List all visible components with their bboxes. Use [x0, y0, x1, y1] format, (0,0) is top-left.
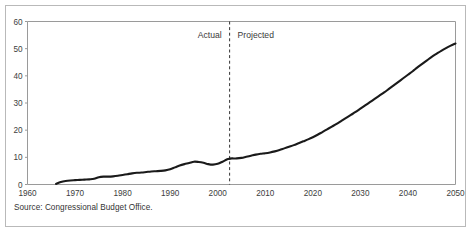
- y-tick-label: 20: [13, 126, 23, 135]
- y-tick-label: 60: [13, 18, 23, 27]
- line-chart: 0102030405060 19601970198019902000201020…: [0, 0, 473, 233]
- x-tick-label: 1970: [66, 189, 85, 198]
- data-line-projected: [230, 44, 456, 159]
- x-tick-label: 1990: [161, 189, 180, 198]
- x-tick-label: 1960: [18, 189, 37, 198]
- x-tick-label: 2030: [351, 189, 370, 198]
- y-axis-tick-labels: 0102030405060: [13, 18, 27, 190]
- source-note: Source: Congressional Budget Office.: [14, 203, 153, 212]
- x-tick-label: 2000: [209, 189, 228, 198]
- axis-spines: [28, 22, 456, 185]
- x-tick-label: 2010: [256, 189, 275, 198]
- projected-annotation-label: Projected: [238, 30, 275, 40]
- y-tick-label: 50: [13, 45, 23, 54]
- x-tick-label: 1980: [114, 189, 133, 198]
- y-tick-label: 30: [13, 99, 23, 108]
- x-tick-label: 2040: [399, 189, 418, 198]
- plot-wrapper: 0102030405060 19601970198019902000201020…: [0, 0, 473, 233]
- x-axis-tick-labels: 1960197019801990200020102020203020402050: [18, 189, 465, 198]
- actual-annotation-label: Actual: [198, 30, 222, 40]
- x-tick-label: 2050: [446, 189, 465, 198]
- chart-figure: 0102030405060 19601970198019902000201020…: [0, 0, 473, 233]
- data-line-actual: [56, 159, 230, 184]
- y-tick-label: 40: [13, 72, 23, 81]
- plot-frame: [28, 22, 456, 185]
- x-tick-label: 2020: [304, 189, 323, 198]
- y-tick-label: 10: [13, 153, 23, 162]
